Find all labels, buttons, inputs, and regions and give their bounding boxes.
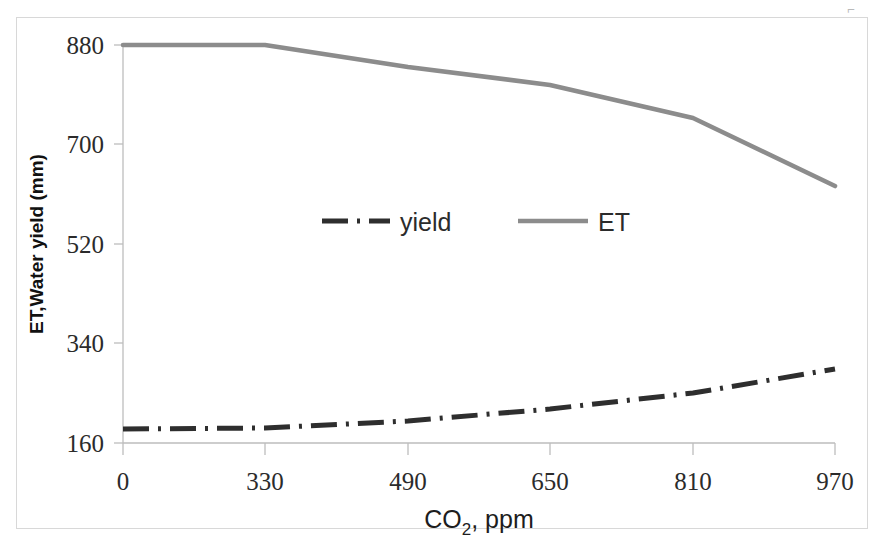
y-tick-marks [114,45,123,443]
x-tick-label-650: 650 [531,468,569,495]
y-tick-label-880: 880 [67,32,105,59]
x-axis-title-subscript: 2 [462,520,471,539]
x-tick-label-970: 970 [816,468,854,495]
chart-legend: yield ET [322,208,630,236]
series-line-et [123,45,835,186]
x-axis-title-rest: , ppm [471,505,534,533]
y-tick-label-340: 340 [67,330,105,357]
series-line-yield [123,369,835,429]
legend-label-yield: yield [400,208,451,236]
x-tick-label-0: 0 [117,468,130,495]
x-tick-label-330: 330 [246,468,284,495]
y-tick-label-520: 520 [67,231,105,258]
y-tick-label-700: 700 [67,131,105,158]
x-tick-label-490: 490 [389,468,427,495]
y-tick-label-160: 160 [67,430,105,457]
x-axis-title: CO2, ppm [424,505,534,539]
x-tick-label-810: 810 [674,468,712,495]
x-tick-marks [123,443,835,455]
x-axis-title-base: CO [424,505,462,533]
line-chart: 880 700 520 340 160 0 330 490 650 810 97… [0,0,884,560]
legend-label-et: ET [598,208,630,236]
y-axis-title: ET,Water yield (mm) [26,154,47,334]
